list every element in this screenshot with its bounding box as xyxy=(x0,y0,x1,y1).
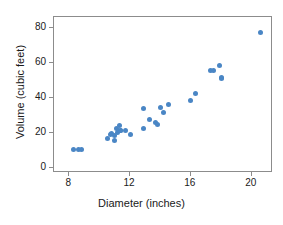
y-tick-mark xyxy=(49,62,53,63)
x-tick-mark xyxy=(68,172,69,176)
x-tick-label: 12 xyxy=(114,177,144,188)
data-point xyxy=(105,136,110,141)
x-tick-mark xyxy=(251,172,252,176)
data-point xyxy=(112,138,117,143)
data-points-layer xyxy=(54,17,271,171)
data-point xyxy=(166,102,171,107)
scatter-plot-figure: 8121620 020406080 Diameter (inches) Volu… xyxy=(0,0,283,225)
x-tick-mark xyxy=(190,172,191,176)
x-tick-label: 16 xyxy=(175,177,205,188)
data-point xyxy=(217,63,222,68)
data-point xyxy=(161,110,166,115)
data-point xyxy=(141,106,146,111)
plot-area xyxy=(53,16,272,172)
y-axis-title: Volume (cubic feet) xyxy=(14,12,26,172)
y-tick-mark xyxy=(49,167,53,168)
data-point xyxy=(79,147,84,152)
y-tick-mark xyxy=(49,97,53,98)
data-point xyxy=(258,30,263,35)
x-tick-mark xyxy=(129,172,130,176)
data-point xyxy=(188,98,193,103)
data-point xyxy=(155,122,160,127)
data-point xyxy=(219,76,224,81)
y-tick-mark xyxy=(49,27,53,28)
data-point xyxy=(158,105,163,110)
data-point xyxy=(123,128,128,133)
data-point xyxy=(128,132,133,137)
x-tick-label: 8 xyxy=(53,177,83,188)
data-point xyxy=(193,91,198,96)
data-point xyxy=(141,126,146,131)
x-tick-label: 20 xyxy=(236,177,266,188)
y-tick-mark xyxy=(49,132,53,133)
x-axis-title: Diameter (inches) xyxy=(0,197,283,209)
data-point xyxy=(211,68,216,73)
data-point xyxy=(147,117,152,122)
